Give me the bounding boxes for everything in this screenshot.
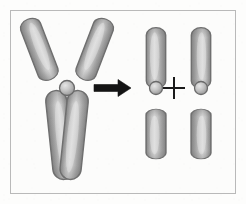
- separated-chromatid-2: [191, 28, 211, 159]
- chromosome-upper-left-arm: [18, 16, 61, 84]
- centromere-chromatid-2: [195, 82, 208, 95]
- duplicated-chromosome: [18, 16, 116, 181]
- transition-arrow: [94, 80, 131, 97]
- separated-chromatid-1: [146, 28, 166, 159]
- centromere-left-chromosome: [60, 81, 75, 96]
- diagram-canvas: [0, 0, 246, 204]
- chromosome-diagram: [0, 0, 246, 204]
- centromere-chromatid-1: [150, 82, 163, 95]
- chromosome-upper-right-arm: [73, 16, 116, 84]
